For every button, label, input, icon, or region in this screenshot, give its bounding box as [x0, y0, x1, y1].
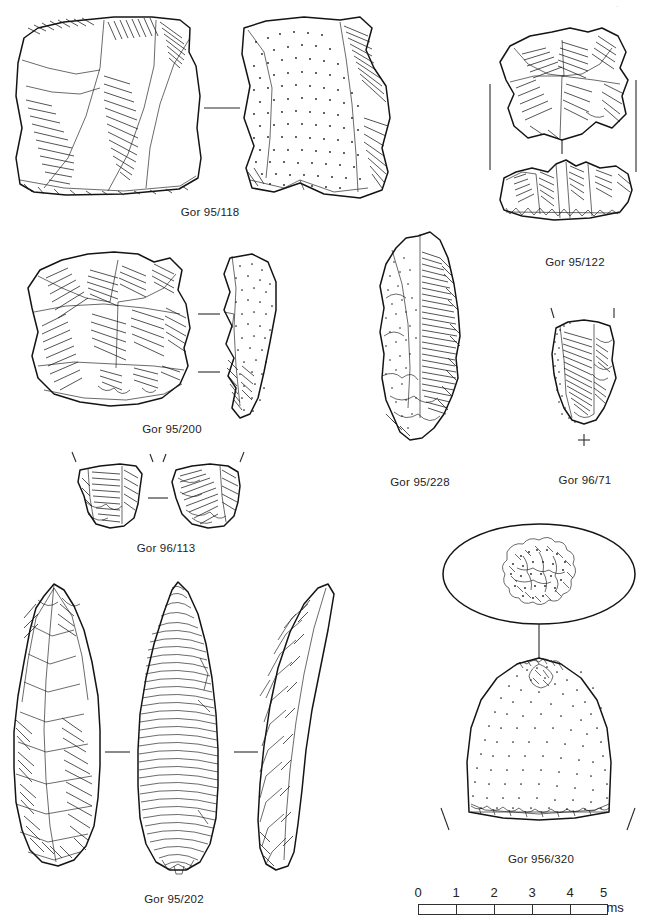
artifact-gor-95-202 [2, 570, 347, 882]
corner-mark: · [616, 2, 619, 11]
gor-95-122-view-plan [500, 28, 628, 140]
gor-95-118-view-left [16, 17, 201, 195]
gor-95-122-view-profile [500, 160, 632, 220]
scale-divider-3 [532, 904, 533, 915]
gor-96-71-view [552, 320, 616, 424]
gor-96-113-view-left [78, 464, 142, 528]
artifact-gor-95-118 [4, 8, 404, 208]
artifact-gor-95-228 [372, 228, 482, 463]
caption-gor-95-228: Gor 95/228 [360, 476, 480, 488]
caption-gor-95-200: Gor 95/200 [112, 423, 232, 435]
scale-tick-1: 1 [452, 885, 459, 900]
gor-95-228-view-dorsal [380, 232, 460, 440]
orientation-tick [627, 808, 635, 830]
gor-956-320-view-side [467, 658, 611, 820]
orientation-tick [240, 452, 244, 462]
artifact-gor-95-122 [470, 22, 655, 242]
gor-95-202-view-lateral [258, 584, 334, 870]
caption-gor-96-113: Gor 96/113 [106, 542, 226, 554]
artifact-gor-956-320 [435, 512, 645, 842]
caption-gor-956-320: Gor 956/320 [481, 853, 601, 865]
plus-annotation [578, 434, 590, 446]
caption-gor-96-71: Gor 96/71 [525, 474, 645, 486]
gor-95-200-view-profile [224, 254, 276, 418]
scale-divider-4 [570, 904, 571, 915]
gor-956-320-view-plan [443, 524, 635, 624]
scale-bar-rect [418, 904, 608, 915]
orientation-tick [150, 454, 153, 462]
orientation-tick [72, 452, 76, 462]
caption-gor-95-118: Gor 95/118 [150, 206, 270, 218]
scale-divider-2 [494, 904, 495, 915]
illustration-plate: · [0, 0, 661, 919]
gor-95-202-view-dorsal [14, 584, 100, 866]
scale-tick-0: 0 [414, 885, 421, 900]
gor-96-113-view-right [172, 464, 240, 528]
orientation-tick [441, 808, 449, 830]
artifact-gor-95-200 [14, 248, 284, 423]
scale-bar: 0 1 2 3 4 5 cms [418, 885, 608, 917]
gor-95-118-view-right [242, 17, 390, 198]
gor-95-200-view-plan [28, 252, 190, 406]
orientation-tick [163, 454, 166, 462]
scale-tick-2: 2 [490, 885, 497, 900]
gor-95-202-view-ventral [138, 582, 218, 874]
scale-tick-labels: 0 1 2 3 4 5 cms [418, 885, 608, 901]
scale-divider-1 [456, 904, 457, 915]
scale-tick-3: 3 [528, 885, 535, 900]
orientation-tick [551, 308, 554, 318]
artifact-gor-96-71 [538, 304, 630, 454]
caption-gor-95-122: Gor 95/122 [515, 256, 635, 268]
artifact-gor-96-113 [58, 448, 258, 538]
caption-gor-95-202: Gor 95/202 [114, 893, 234, 905]
scale-tick-4: 4 [566, 885, 573, 900]
